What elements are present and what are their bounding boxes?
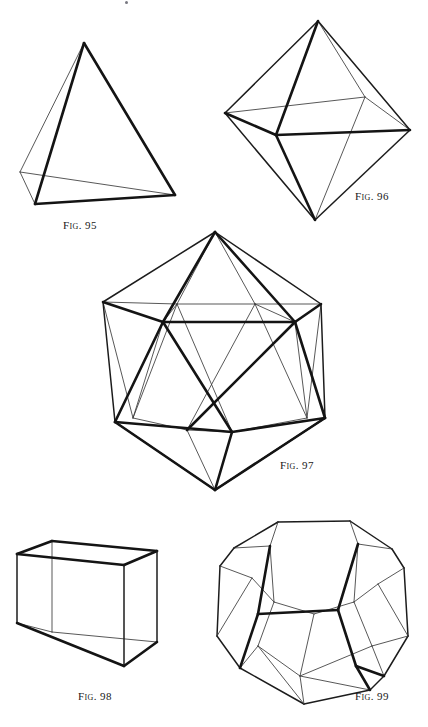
dodeca-edge-sil-br2 — [370, 676, 384, 690]
dodeca-edge-rim-l2 — [217, 578, 252, 636]
caption-number: 96 — [377, 190, 389, 202]
ico-edge-upleft-backB — [103, 302, 177, 304]
tetra-edge-apex-back — [20, 43, 84, 172]
caption-number: 99 — [377, 690, 389, 702]
dodeca-edge-near-bl — [240, 614, 258, 668]
ico-edge-backA-frontright — [255, 304, 295, 322]
figure-plate: Fig. 95 Fig. 96 — [0, 0, 428, 727]
caption-prefix: Fig. — [78, 690, 97, 702]
caption-number: 98 — [100, 690, 112, 702]
dodeca-edge-sil-tr2 — [392, 549, 404, 568]
dodeca-edge-rim-tl — [234, 546, 270, 548]
dodeca-edge-sil-tl1 — [220, 548, 234, 566]
octa-edge-right-bottom — [315, 130, 410, 220]
dodeca-edge-br-inner-up — [354, 602, 372, 646]
dodeca-edge-inner-tl-down — [270, 546, 274, 602]
cube-edge-top-back — [52, 541, 157, 551]
ico-edge-frontright-lowmidL — [187, 322, 295, 430]
ico-edge-top-frontleft — [163, 232, 215, 322]
cube-edge-back-bottom-right — [52, 632, 157, 642]
dodeca-edge-bl-bottom — [258, 646, 300, 676]
octa-edge-left-bottom — [225, 113, 315, 220]
dodeca-edge-near-tr-vert — [338, 544, 358, 610]
caption-fig-97: Fig. 97 — [280, 459, 314, 471]
cube-edge-top-right-front — [124, 551, 157, 565]
tetra-edge-apex-frontleft — [35, 43, 84, 204]
dodeca-edge-rim-bl2 — [258, 646, 304, 704]
octa-edge-top-left — [225, 21, 318, 113]
ico-edge-frontright-lowright — [295, 322, 325, 418]
dodeca-edge-rim-b2 — [300, 676, 370, 690]
dodeca-edge-sil-bl1 — [240, 668, 304, 704]
dodeca-edge-sil-tl2 — [234, 522, 278, 548]
octa-edge-top-front — [276, 21, 318, 135]
ico-edge-frontright-lowrightA-thin — [295, 322, 307, 418]
tetra-edge-back-frontleft — [20, 172, 35, 204]
cube-edge-bottom-front-right — [124, 642, 157, 666]
dodeca-edge-right-inner — [354, 584, 378, 602]
ico-edge-lowleft-apex — [115, 422, 215, 490]
dodeca-edge-sil-right — [404, 568, 408, 636]
ico-edge-upleft-frontleft — [103, 302, 163, 322]
figure-tetrahedron — [0, 0, 230, 230]
dodeca-edge-rim-r — [378, 568, 404, 584]
cube-edge-top-left-back — [17, 541, 52, 554]
ico-edge-frontleft-lowleft — [115, 322, 163, 422]
octa-edge-left-back — [225, 97, 365, 113]
caption-prefix: Fig. — [280, 459, 299, 471]
dodeca-edge-sil-bl2 — [217, 636, 240, 668]
tetra-edge-base-front — [35, 195, 175, 204]
caption-prefix: Fig. — [63, 219, 82, 231]
octa-edge-back-right — [365, 97, 410, 130]
ico-edge-top-frontright — [215, 232, 295, 322]
caption-prefix: Fig. — [355, 690, 374, 702]
ico-edge-left-side — [103, 302, 115, 422]
caption-number: 97 — [302, 459, 314, 471]
ico-edge-top-upleft — [103, 232, 215, 302]
dodeca-edge-bottom-inner-up — [300, 614, 314, 676]
octa-edge-front-bottom — [276, 135, 315, 220]
cube-edge-top-front — [17, 554, 124, 565]
caption-fig-96: Fig. 96 — [355, 190, 389, 202]
dodeca-edge-rim-r2 — [378, 584, 408, 636]
octa-edge-left-front — [225, 113, 276, 135]
caption-prefix: Fig. — [355, 190, 374, 202]
dodeca-edge-rim-l — [220, 566, 252, 578]
dodeca-edge-near-center-down — [338, 610, 356, 666]
octa-edge-top-back — [318, 21, 365, 97]
caption-fig-99: Fig. 99 — [355, 690, 389, 702]
tetra-edge-apex-right — [84, 43, 175, 195]
ico-edge-frontleft-lowmidR — [163, 322, 232, 432]
dodeca-edge-sil-top — [278, 521, 350, 522]
ico-edge-lowleftA-upleft — [103, 302, 133, 418]
ico-edge-lower-front-band — [115, 422, 232, 432]
dodeca-edge-sil-left — [217, 566, 220, 636]
ico-edge-right-side — [321, 304, 325, 418]
figure-dodecahedron — [212, 518, 417, 718]
figure-octahedron — [210, 0, 428, 235]
ico-edge-frontleft-lowleftA-thin — [133, 322, 163, 418]
figure-hexahedron — [8, 530, 188, 690]
ico-edge-frontright-upright — [295, 304, 321, 322]
dodeca-edge-bottom-br — [300, 646, 372, 676]
dodeca-edge-near-tl-vert — [258, 546, 270, 614]
cube-edge-bottom-front-left — [17, 623, 124, 666]
ico-edge-lowmidR-lowright — [232, 418, 325, 432]
octa-edge-top-right — [318, 21, 410, 130]
caption-fig-98: Fig. 98 — [78, 690, 112, 702]
dodeca-edge-bl-inner-up — [258, 602, 274, 646]
dodeca-edge-sil-tr1 — [350, 521, 392, 549]
octa-edge-front-right — [276, 130, 410, 135]
ico-edge-top-backA — [215, 232, 255, 304]
